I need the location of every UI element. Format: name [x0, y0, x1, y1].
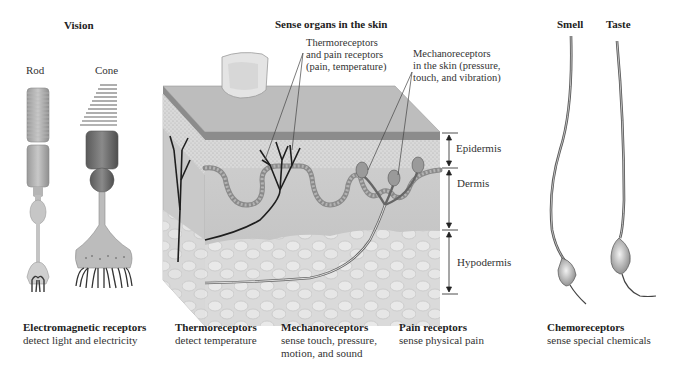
caption-title: Pain receptors: [399, 321, 484, 334]
layer-dimension-markers: [442, 133, 458, 294]
caption-desc: sense physical pain: [399, 334, 484, 347]
vision-title: Vision: [64, 19, 94, 31]
smell-neuron-illustration: [551, 36, 586, 304]
caption-desc: detect temperature: [175, 334, 257, 347]
smell-label: Smell: [557, 18, 583, 30]
caption-title: Thermoreceptors: [175, 321, 257, 334]
thermoreceptor-annotation: Thermoreceptors and pain receptors (pain…: [306, 37, 386, 73]
layer-label-hypodermis: Hypodermis: [457, 256, 511, 268]
rod-label: Rod: [26, 64, 44, 76]
caption-pain-receptors: Pain receptors sense physical pain: [399, 321, 484, 347]
ice-cube-illustration: [222, 53, 268, 98]
cone-label: Cone: [95, 64, 118, 76]
caption-thermoreceptors: Thermoreceptors detect temperature: [175, 321, 257, 347]
caption-desc: sense touch, pressure, motion, and sound: [281, 334, 377, 360]
layer-label-epidermis: Epidermis: [456, 142, 501, 154]
skin-block-illustration: [163, 53, 458, 326]
taste-label: Taste: [606, 18, 631, 30]
caption-title: Chemoreceptors: [547, 321, 651, 334]
caption-title: Electromagnetic receptors: [23, 321, 146, 334]
caption-chemoreceptors: Chemoreceptors sense special chemicals: [547, 321, 651, 347]
caption-desc: detect light and electricity: [23, 334, 146, 347]
skin-section-title: Sense organs in the skin: [275, 18, 387, 30]
caption-title: Mechanoreceptors: [281, 321, 377, 334]
taste-neuron-illustration: [611, 41, 656, 297]
mechanoreceptor-annotation: Mechanoreceptors in the skin (pressure, …: [413, 48, 501, 84]
caption-electromagnetic: Electromagnetic receptors detect light a…: [23, 321, 146, 347]
layer-label-dermis: Dermis: [457, 177, 489, 189]
cone-cell-illustration: [75, 85, 132, 288]
rod-cell-illustration: [27, 88, 49, 292]
caption-desc: sense special chemicals: [547, 334, 651, 347]
caption-mechanoreceptors: Mechanoreceptors sense touch, pressure, …: [281, 321, 377, 360]
